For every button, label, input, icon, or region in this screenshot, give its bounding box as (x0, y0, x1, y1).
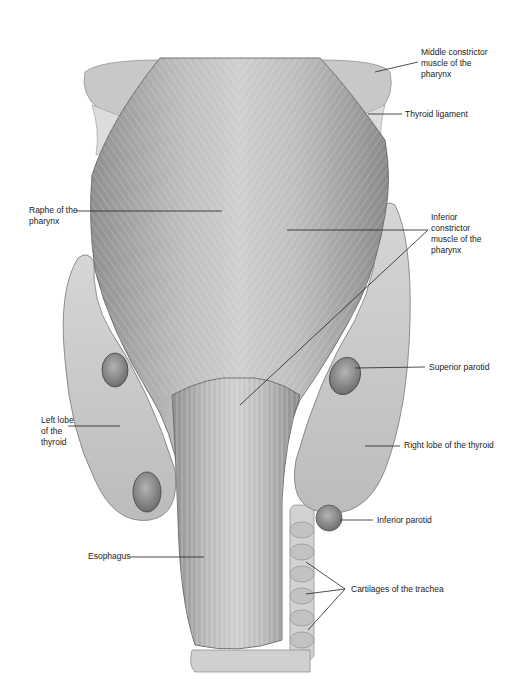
trachea (290, 505, 314, 660)
left-lower-nodule (133, 472, 161, 512)
label-middle-constrictor: Middle constrictor muscle of the pharynx (421, 47, 488, 80)
label-superior-parotid: Superior parotid (429, 362, 489, 373)
label-left-lobe-thyroid: Left lobe of the thyroid (41, 415, 74, 448)
label-cartilages-trachea: Cartilages of the trachea (351, 584, 444, 595)
label-thyroid-ligament: Thyroid ligament (405, 109, 468, 120)
inferior-parotid-nodule (316, 505, 342, 531)
label-inferior-parotid: Inferior parotid (377, 515, 432, 526)
cricoid-base (191, 650, 310, 672)
label-inferior-constrictor: Inferior constrictor muscle of the phary… (431, 212, 482, 256)
label-raphe-of-pharynx: Raphe of the pharynx (29, 205, 78, 227)
label-right-lobe-thyroid: Right lobe of the thyroid (404, 440, 494, 451)
left-upper-nodule (102, 353, 128, 387)
label-esophagus: Esophagus (88, 551, 131, 562)
